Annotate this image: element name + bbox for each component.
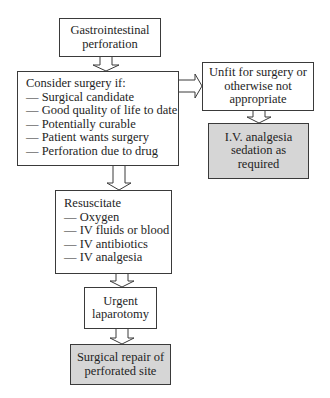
node-text: Gastrointestinal	[60, 24, 160, 38]
criteria-item: — Potentially curable	[26, 118, 178, 132]
node-text: perforated site	[71, 365, 170, 379]
node-gi-perforation: Gastrointestinal perforation	[59, 18, 161, 57]
criteria-item: — Surgical candidate	[26, 91, 178, 105]
resuscitate-item: — Oxygen	[64, 211, 171, 225]
arrow-down-icon	[92, 57, 120, 72]
node-urgent-laparotomy: Urgent laparotomy	[84, 287, 157, 329]
arrow-right-icon	[179, 74, 203, 100]
arrow-down-icon	[109, 274, 135, 288]
node-unfit-for-surgery: Unfit for surgery or otherwise not appro…	[202, 62, 314, 111]
criteria-item: — Patient wants surgery	[26, 131, 178, 145]
node-iv-analgesia-sedation: I.V. analgesia sedation as required	[208, 123, 309, 179]
node-text: otherwise not	[203, 80, 313, 94]
criteria-item: — Good quality of life to date	[26, 104, 178, 118]
node-text: Surgical repair of	[71, 351, 170, 365]
node-heading: Resuscitate	[64, 197, 171, 211]
node-text: Urgent	[85, 295, 156, 309]
node-text: Unfit for surgery or	[203, 66, 313, 80]
node-text: perforation	[60, 38, 160, 52]
node-resuscitate: Resuscitate — Oxygen — IV fluids or bloo…	[55, 190, 172, 274]
node-text: laparotomy	[85, 308, 156, 322]
node-consider-surgery: Consider surgery if: — Surgical candidat…	[17, 71, 179, 166]
arrow-down-icon	[106, 166, 132, 191]
node-text: I.V. analgesia	[209, 131, 308, 145]
node-surgical-repair: Surgical repair of perforated site	[70, 344, 171, 385]
node-text: appropriate	[203, 93, 313, 107]
arrow-down-icon	[109, 329, 135, 345]
node-text: sedation as	[209, 144, 308, 158]
resuscitate-item: — IV analgesia	[64, 251, 171, 265]
criteria-item: — Perforation due to drug	[26, 145, 178, 159]
node-text: required	[209, 158, 308, 172]
resuscitate-item: — IV fluids or blood	[64, 224, 171, 238]
resuscitate-item: — IV antibiotics	[64, 238, 171, 252]
node-heading: Consider surgery if:	[26, 77, 178, 91]
